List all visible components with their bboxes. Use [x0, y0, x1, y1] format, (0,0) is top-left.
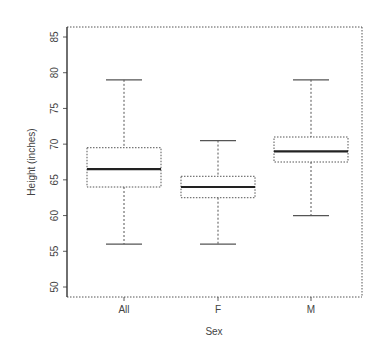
y-axis: 5055606570758085 — [49, 31, 67, 293]
x-axis-title: Sex — [205, 326, 222, 337]
iqr-box — [87, 148, 161, 187]
y-tick-label: 65 — [49, 174, 60, 186]
x-tick-label: M — [307, 304, 315, 315]
x-axis: AllFM — [118, 297, 315, 315]
y-tick-label: 70 — [49, 138, 60, 150]
iqr-box — [274, 137, 348, 162]
boxes-group — [87, 80, 348, 244]
box-m — [274, 80, 348, 216]
y-tick-label: 80 — [49, 67, 60, 79]
y-tick-label: 50 — [49, 281, 60, 293]
box-f — [181, 141, 255, 245]
box-plot-chart: 5055606570758085 AllFM Height (inches) S… — [0, 0, 385, 358]
y-axis-title: Height (inches) — [26, 128, 37, 195]
y-tick-label: 60 — [49, 210, 60, 222]
x-tick-label: All — [118, 304, 129, 315]
y-tick-label: 55 — [49, 245, 60, 257]
y-tick-label: 75 — [49, 102, 60, 114]
y-tick-label: 85 — [49, 31, 60, 43]
box-all — [87, 80, 161, 244]
x-tick-label: F — [215, 304, 221, 315]
